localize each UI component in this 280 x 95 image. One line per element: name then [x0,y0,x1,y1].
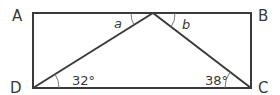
angle-label-d: 32° [72,73,95,88]
vertex-label-b: B [258,7,268,25]
angle-label-c: 38° [205,73,228,88]
angle-arc-b [171,13,175,27]
vertex-label-c: C [258,79,268,95]
angle-label-a: a [114,16,122,31]
vertex-label-a: A [12,7,23,25]
angle-arc-a [131,13,134,25]
angle-arc-d [55,74,59,88]
vertex-label-d: D [10,79,22,95]
segment-pc [153,13,251,88]
angle-label-b: b [182,17,190,32]
geometry-diagram: A B C D a b 32° 38° [0,0,280,95]
